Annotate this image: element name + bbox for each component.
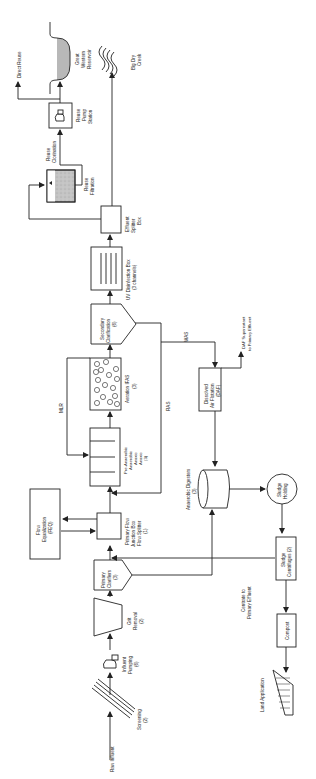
svg-text:(6): (6) [112, 321, 117, 327]
influent-pumping-label: Influent [122, 656, 127, 672]
svg-text:(DAF): (DAF) [216, 384, 221, 397]
direct-reuse-label: Direct Reuse [17, 51, 22, 78]
primary-clarifiers-label: Primary [101, 571, 106, 588]
svg-text:(2): (2) [139, 618, 144, 624]
ras-label: RAS [166, 402, 171, 411]
daf-node: Dissolved Air Flotation (DAF) [199, 368, 221, 411]
secondary-clarification-label: Secondary [100, 317, 105, 340]
compost-label: Compost [285, 621, 290, 640]
screening-label: Screening [137, 709, 142, 730]
svg-text:to Primary Effluent: to Primary Effluent [247, 316, 252, 351]
grit-removal-label: Grit [127, 617, 132, 625]
svg-text:Reservoir: Reservoir [87, 49, 92, 69]
aeration-ifas-label: Aeration IFAS [125, 375, 130, 403]
grit-removal-node: Grit Removal (2) [94, 598, 144, 636]
secondary-clarification-node: Secondary Clarification (6) [91, 304, 136, 344]
compost-node: Compost [277, 614, 296, 647]
svg-text:Splitter: Splitter [131, 218, 136, 233]
pump-icon [103, 655, 118, 668]
sludge-centrifuges-label: Sludge [281, 552, 286, 567]
svg-text:Clorination: Clorination [52, 141, 57, 163]
great-western-reservoir-label: Great [75, 53, 80, 65]
svg-text:Removal: Removal [133, 612, 138, 630]
sludge-centrifuges-node: Sludge Centrifuges (2) [276, 537, 296, 580]
screening-count: (2) [143, 717, 148, 723]
svg-text:(3): (3) [132, 383, 137, 389]
process-flow-diagram: Raw Influent Screening (2) Influent Pump… [0, 0, 316, 779]
raw-influent: Raw Influent [110, 712, 115, 772]
sludge-holding-node: Sludge Holding [267, 474, 297, 504]
raw-influent-label: Raw Influent [110, 746, 115, 772]
screening-node: Screening (2) [92, 679, 148, 730]
uv-disinfection-label: UV Disinfection Box [126, 259, 131, 300]
sludge-holding-label: Sludge [277, 482, 282, 497]
primary-clarifiers-node: Primary Clarifiers (3) [94, 560, 132, 590]
centrate-label: Centrate to [241, 589, 246, 612]
mlr-label: MLR [59, 403, 64, 413]
svg-text:Holding: Holding [283, 483, 288, 499]
svg-text:Western: Western [81, 51, 86, 68]
flow-equalization-node: Flow Equalization (FEQ) [30, 489, 60, 559]
reuse-chlorination-label: Reuse [46, 147, 51, 161]
land-application-label: Land Application [260, 678, 265, 712]
svg-text:Creek: Creek [137, 53, 142, 66]
uv-disinfection-box-node: UV Disinfection Box (3 channels) [91, 247, 137, 300]
svg-text:Clarification: Clarification [106, 319, 111, 343]
anaerobic-digesters-label: Anaerobic Digesters [186, 468, 191, 510]
great-western-reservoir-node: Great Western Reservoir [50, 22, 92, 94]
svg-text:Clarifiers: Clarifiers [107, 569, 112, 588]
svg-text:Pumping: Pumping [128, 655, 133, 674]
influent-pumping-node: Influent Pumping (6) [103, 655, 139, 674]
svg-text:(1): (1) [143, 528, 148, 534]
reuse-filtration-node: Reuse Filtration [47, 170, 95, 202]
svg-text:Filtration: Filtration [90, 177, 95, 195]
big-dry-creek-label: Big Dry [131, 54, 136, 70]
was-label: WAS [184, 332, 189, 342]
svg-text:(3): (3) [113, 574, 118, 580]
big-dry-creek-node: Big Dry Creek [99, 46, 142, 76]
reuse-filtration-label: Reuse [84, 177, 89, 191]
effluent-splitter-label: Effluent [125, 216, 130, 232]
flow-equalization-label: Flow [36, 525, 41, 535]
water-waves-icon [99, 46, 117, 76]
reuse-pump-station-node: Reuse Pump Station [49, 103, 93, 128]
anaerobic-digesters-node: Anaerobic Digesters (3) [186, 468, 230, 510]
primary-flow-junction-label: Primary Flow [125, 518, 130, 545]
svg-text:Box: Box [137, 216, 142, 225]
svg-text:Centrifuges (2): Centrifuges (2) [287, 546, 292, 577]
aeration-ifas-node: Aeration IFAS (3) [90, 358, 137, 410]
svg-text:Pump: Pump [82, 109, 87, 121]
svg-text:Equalization: Equalization [42, 517, 47, 542]
svg-text:(3): (3) [192, 488, 197, 494]
svg-text:(3): (3) [143, 455, 148, 461]
svg-text:Flow Splitter: Flow Splitter [137, 520, 142, 546]
daf-label: Dissolved [204, 384, 209, 404]
svg-text:Station: Station [88, 109, 93, 124]
reuse-pump-station-label: Reuse [76, 108, 81, 122]
svg-text:(3 channels): (3 channels) [132, 264, 137, 290]
daf-supernatant-label: DAF Supernatant [241, 316, 246, 349]
pre-anaerobic-basin-node: Pre-Anaerobic Anaerobic Anoxic Anoxic (3… [90, 428, 148, 486]
svg-text:(6): (6) [134, 661, 139, 667]
svg-text:Primary Effluent: Primary Effluent [247, 586, 252, 619]
svg-text:Air Flotation: Air Flotation [210, 383, 215, 408]
svg-text:(FEQ): (FEQ) [48, 521, 53, 534]
land-application-node: Land Application [260, 670, 293, 715]
effluent-splitter-box-node: Effluent Splitter Box [101, 206, 142, 233]
primary-flow-junction-box-node: Primary Flow Junction Box Flow Splitter … [97, 513, 148, 547]
svg-text:Junction Box: Junction Box [131, 520, 136, 547]
